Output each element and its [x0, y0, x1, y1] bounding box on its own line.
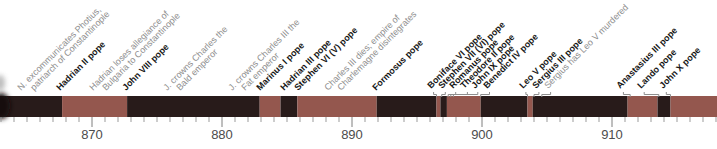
timeline-labels: N. excommunicates Photius,patriarch of C… — [0, 0, 717, 149]
event-label: J. crowns Charles the — [161, 24, 230, 93]
timeline-chart: 870880890900910 N. excommunicates Photiu… — [0, 0, 717, 149]
event-label: Sergius has Leo V murdered — [542, 2, 631, 91]
